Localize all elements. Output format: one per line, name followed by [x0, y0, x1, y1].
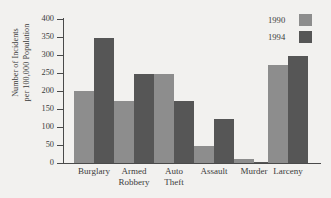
y-axis-title-line-1: Number of Incidents — [11, 0, 22, 138]
x-axis-label-line: Theft — [134, 177, 214, 188]
y-axis-tick-label: 50 — [30, 141, 54, 149]
bar-murder-1990 — [234, 159, 254, 163]
y-axis-tick-label: 400 — [30, 15, 54, 23]
x-axis-label-larceny: Larceny — [248, 166, 328, 177]
y-axis-tick-label: 150 — [30, 105, 54, 113]
y-axis-tick-label: 200 — [30, 87, 54, 95]
bar-group — [194, 19, 234, 163]
bar-group — [154, 19, 194, 163]
bar-larceny-1994 — [288, 56, 308, 163]
y-axis-tick-label: 0 — [30, 159, 54, 167]
legend-swatch — [299, 31, 312, 43]
bar-burglary-1990 — [74, 91, 94, 163]
y-axis-tick-labels: 050100150200250300350400 — [28, 0, 54, 198]
x-axis-line — [62, 163, 321, 164]
bar-auto-theft-1990 — [154, 74, 174, 163]
legend-item-1990: 1990 — [268, 13, 312, 27]
bar-larceny-1990 — [268, 65, 288, 163]
bar-burglary-1994 — [94, 38, 114, 163]
y-axis-tick-label: 100 — [30, 123, 54, 131]
bar-armed-robbery-1990 — [114, 101, 134, 163]
y-axis-tick-label: 250 — [30, 69, 54, 77]
bar-group — [114, 19, 154, 163]
legend-label: 1994 — [268, 33, 294, 42]
bar-assault-1994 — [214, 119, 234, 163]
bar-group — [74, 19, 114, 163]
bar-auto-theft-1994 — [174, 101, 194, 163]
legend-item-1994: 1994 — [268, 30, 312, 44]
legend-swatch — [299, 14, 312, 26]
x-axis-label-line: Larceny — [248, 166, 328, 177]
y-axis-tick-label: 350 — [30, 33, 54, 41]
legend-label: 1990 — [268, 16, 294, 25]
bar-chart: Number of Incidents per 100,000 Populati… — [0, 0, 331, 198]
y-axis-tick-label: 300 — [30, 51, 54, 59]
bar-armed-robbery-1994 — [134, 74, 154, 163]
bar-assault-1990 — [194, 146, 214, 163]
legend: 19901994 — [268, 13, 312, 47]
